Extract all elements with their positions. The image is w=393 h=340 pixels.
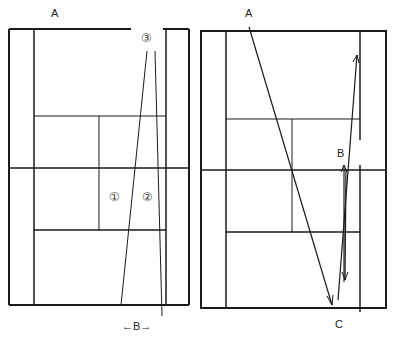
label-circle-3: ③: [141, 31, 152, 45]
right-court: [201, 27, 386, 312]
label-circle-1: ①: [109, 190, 120, 204]
label-a-left: A: [51, 7, 59, 19]
left-court: [9, 29, 189, 316]
court-diagram: A ③ ① ② ←B→ A B C: [0, 0, 393, 340]
label-b-right: B: [337, 147, 344, 159]
label-circle-2: ②: [142, 190, 153, 204]
label-c-right: C: [335, 318, 343, 330]
label-a-right: A: [245, 7, 253, 19]
label-b-left: ←B→: [122, 320, 151, 332]
